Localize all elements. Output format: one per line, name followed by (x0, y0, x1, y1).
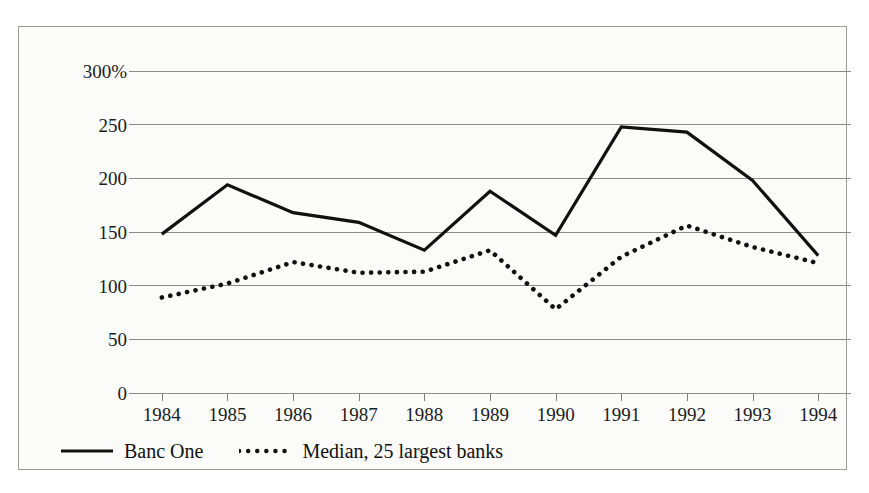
legend-entry-1[interactable]: Banc One (61, 441, 203, 461)
x-tick-1991 (621, 393, 622, 401)
x-tick-1990 (556, 393, 557, 401)
x-tick-1987 (359, 393, 360, 401)
y-tick-label-50: 50 (47, 330, 127, 349)
x-tick-label-1987: 1987 (324, 405, 394, 424)
x-axis: 1984198519861987198819891990199119921993… (129, 393, 851, 433)
x-tick-label-1986: 1986 (258, 405, 328, 424)
series-line-2 (162, 226, 818, 310)
x-tick-label-1993: 1993 (718, 405, 788, 424)
x-tick-label-1984: 1984 (127, 405, 197, 424)
x-tick-1989 (490, 393, 491, 401)
y-tick-label-250: 250 (47, 116, 127, 135)
x-tick-1984 (162, 393, 163, 401)
chart-figure-frame: 050100150200250300% 19841985198619871988… (18, 26, 847, 470)
x-tick-1986 (293, 393, 294, 401)
legend-label-1: Banc One (124, 441, 203, 461)
x-tick-label-1985: 1985 (192, 405, 262, 424)
x-tick-1992 (687, 393, 688, 401)
x-tick-label-1988: 1988 (389, 405, 459, 424)
y-tick-label-100: 100 (47, 277, 127, 296)
x-tick-label-1990: 1990 (521, 405, 591, 424)
title-remnant: · (0, 0, 869, 5)
x-tick-1993 (753, 393, 754, 401)
dotted-line-icon (239, 445, 291, 457)
x-tick-label-1989: 1989 (455, 405, 525, 424)
y-tick-label-150: 150 (47, 223, 127, 242)
x-tick-1994 (818, 393, 819, 401)
x-tick-label-1991: 1991 (586, 405, 656, 424)
x-tick-1988 (424, 393, 425, 401)
x-tick-label-1994: 1994 (783, 405, 853, 424)
y-tick-label-0: 0 (47, 384, 127, 403)
legend-entry-2[interactable]: Median, 25 largest banks (239, 441, 503, 461)
y-tick-label-200: 200 (47, 169, 127, 188)
series-plot (129, 71, 851, 393)
x-tick-1985 (227, 393, 228, 401)
y-tick-label-300: 300% (47, 62, 127, 81)
plot-area: 050100150200250300% (129, 71, 851, 393)
legend-label-2: Median, 25 largest banks (302, 441, 503, 461)
x-tick-label-1992: 1992 (652, 405, 722, 424)
chart-legend: Banc OneMedian, 25 largest banks (61, 436, 539, 466)
solid-line-icon (61, 445, 113, 457)
